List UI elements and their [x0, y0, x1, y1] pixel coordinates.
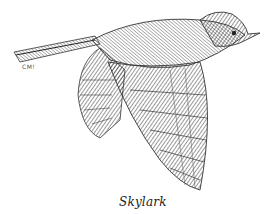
tail [14, 36, 100, 62]
near-wing [108, 62, 208, 190]
eye [232, 31, 236, 35]
artist-signature: CM! [22, 63, 35, 70]
image-caption: Skylark [119, 195, 167, 209]
skylark-illustration [0, 0, 270, 214]
